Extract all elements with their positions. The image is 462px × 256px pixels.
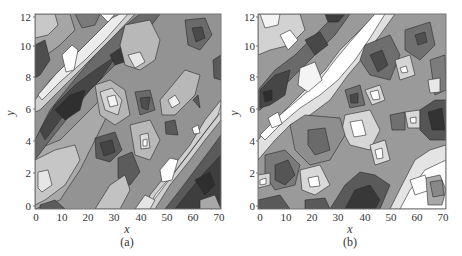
contour-fill-a	[35, 14, 221, 209]
y-axis-label-b: y	[230, 110, 241, 117]
x-axis-label-a: x	[123, 222, 130, 236]
svg-text:6: 6	[250, 103, 256, 115]
svg-text:4: 4	[250, 135, 256, 147]
y-axis-a: 0 2 4 6 8 10 12	[20, 11, 35, 212]
contour-plot-a: 0 2 4 6 8 10 12 y 0 10 20 30 40 50 60 70…	[0, 0, 230, 256]
svg-text:60: 60	[188, 211, 200, 223]
svg-text:50: 50	[162, 211, 174, 223]
svg-text:10: 10	[281, 211, 293, 223]
svg-text:10: 10	[57, 211, 69, 223]
svg-text:0: 0	[33, 211, 39, 223]
svg-text:2: 2	[250, 167, 256, 179]
svg-text:20: 20	[83, 211, 95, 223]
svg-text:20: 20	[307, 211, 319, 223]
panel-label-b: (b)	[343, 235, 357, 249]
svg-text:0: 0	[250, 200, 256, 212]
svg-text:4: 4	[26, 135, 32, 147]
svg-text:12: 12	[244, 11, 255, 23]
svg-text:30: 30	[109, 211, 121, 223]
plot-a-svg: 0 2 4 6 8 10 12 y 0 10 20 30 40 50 60 70…	[0, 0, 230, 256]
svg-text:6: 6	[26, 103, 32, 115]
svg-text:10: 10	[244, 40, 256, 52]
contour-plot-b: 0 2 4 6 8 10 12 y 0 10 20 30 40 50 60 70…	[230, 0, 462, 256]
x-axis-b: 0 10 20 30 40 50 60 70	[257, 211, 449, 223]
svg-text:70: 70	[214, 211, 226, 223]
svg-text:0: 0	[257, 211, 263, 223]
svg-text:50: 50	[386, 211, 398, 223]
y-axis-label-a: y	[3, 110, 17, 117]
contour-fill-b	[258, 14, 446, 209]
svg-text:10: 10	[20, 40, 32, 52]
svg-text:2: 2	[26, 167, 32, 179]
x-axis-label-b: x	[346, 222, 353, 236]
plot-b-svg: 0 2 4 6 8 10 12 y 0 10 20 30 40 50 60 70…	[230, 0, 462, 256]
svg-text:0: 0	[26, 200, 32, 212]
svg-text:30: 30	[333, 211, 345, 223]
svg-text:8: 8	[26, 71, 32, 83]
y-axis-b: 0 2 4 6 8 10 12	[244, 11, 258, 212]
svg-text:8: 8	[250, 71, 256, 83]
svg-text:40: 40	[360, 211, 372, 223]
panel-label-a: (a)	[120, 235, 133, 249]
svg-text:60: 60	[412, 211, 424, 223]
svg-text:70: 70	[438, 211, 450, 223]
svg-text:40: 40	[136, 211, 148, 223]
svg-text:12: 12	[20, 11, 31, 23]
